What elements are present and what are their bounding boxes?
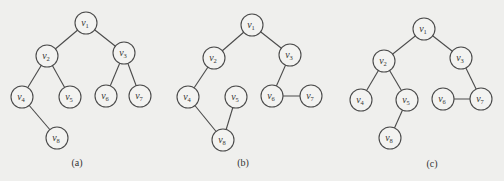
node-v7: v7 [300,85,322,107]
node-v6: v6 [432,88,454,110]
caption-a: (a) [71,157,82,169]
node-v8: v8 [46,127,68,149]
node-v8: v8 [379,127,401,149]
graph-b: v1v2v3v4v5v6v7v8 [177,14,322,151]
node-label-subscript: 2 [384,60,387,67]
node-label-subscript: 3 [290,54,293,61]
node-v7: v7 [470,88,492,110]
caption-c: (c) [426,158,437,170]
node-label-subscript: 2 [47,55,50,62]
node-label-subscript: 1 [252,24,255,31]
node-label-subscript: 8 [223,139,226,146]
node-label-subscript: 5 [70,96,73,103]
node-v1: v1 [75,12,97,34]
node-v3: v3 [279,44,301,66]
node-label-subscript: 3 [461,57,464,64]
node-v1: v1 [413,18,435,40]
node-label-subscript: 8 [390,137,393,144]
node-v4: v4 [177,86,199,108]
node-label-subscript: 1 [86,22,89,29]
node-label-subscript: 5 [236,96,239,103]
node-v8: v8 [212,129,234,151]
node-label-subscript: 8 [57,137,60,144]
node-v5: v5 [59,86,81,108]
node-v2: v2 [36,45,58,67]
graph-figure: v1v2v3v4v5v6v7v8 v1v2v3v4v5v6v7v8 v1v2v3… [0,0,504,181]
graph-a: v1v2v3v4v5v6v7v8 [11,12,151,149]
node-v4: v4 [350,89,372,111]
node-label-subscript: 1 [424,28,427,35]
node-v4: v4 [11,86,33,108]
node-v3: v3 [450,47,472,69]
node-v6: v6 [95,85,117,107]
node-v3: v3 [113,42,135,64]
node-v6: v6 [261,85,283,107]
node-label-subscript: 5 [407,99,410,106]
node-v2: v2 [203,47,225,69]
node-v2: v2 [373,50,395,72]
node-v7: v7 [129,85,151,107]
node-v5: v5 [396,89,418,111]
node-v5: v5 [225,86,247,108]
node-v1: v1 [241,14,263,36]
graph-c: v1v2v3v4v5v6v7v8 [350,18,492,149]
caption-b: (b) [237,157,249,169]
node-label-subscript: 2 [214,57,217,64]
node-label-subscript: 3 [124,52,127,59]
